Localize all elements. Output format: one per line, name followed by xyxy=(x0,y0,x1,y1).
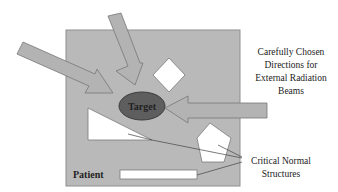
structures-caption: Critical Normal Structures xyxy=(251,156,311,179)
beams-caption-line-3: External Radiation xyxy=(255,73,327,83)
patient-label: Patient xyxy=(73,169,104,180)
structures-caption-line-1: Critical Normal xyxy=(251,156,311,166)
beams-caption: Carefully Chosen Directions for External… xyxy=(255,47,327,96)
beams-caption-line-1: Carefully Chosen xyxy=(258,47,325,57)
structures-caption-line-2: Structures xyxy=(262,169,301,179)
beams-caption-line-2: Directions for xyxy=(264,60,318,70)
bar-structure xyxy=(120,170,197,179)
radiation-beam-diagram: Target Patient Carefully Chosen Directio… xyxy=(0,0,338,192)
target-label: Target xyxy=(128,101,157,112)
beams-caption-line-4: Beams xyxy=(278,86,304,96)
